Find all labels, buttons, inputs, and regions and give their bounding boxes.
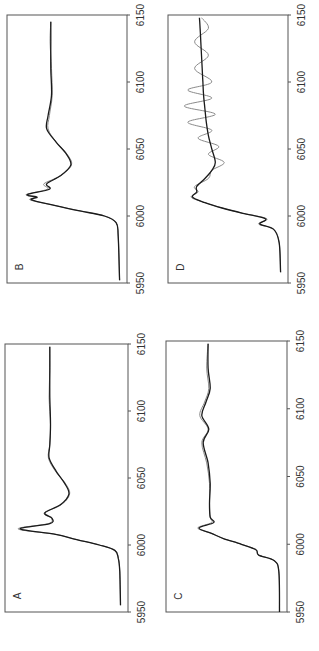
panel-A: 59506000605061006150A (0, 320, 160, 651)
panel-B: 59506000605061006150B (0, 0, 160, 320)
experiment-curve (26, 22, 120, 281)
plot-frame (166, 341, 287, 612)
tick-label: 6150 (136, 332, 147, 355)
panel-label: A (12, 592, 23, 599)
panel-D: 59506000605061006150D (160, 0, 319, 320)
tick-label: 5950 (295, 600, 306, 623)
plot-frame (5, 344, 128, 612)
plot-frame (168, 15, 288, 283)
tick-label: 6150 (295, 329, 306, 352)
tick-label: 6050 (135, 137, 146, 160)
tick-label: 6100 (295, 397, 306, 420)
panel-label: D (175, 263, 186, 270)
tick-label: 6050 (296, 137, 307, 160)
chart-B-svg: 59506000605061006150B (0, 0, 160, 320)
fit-curve (20, 347, 120, 606)
experiment-curve (184, 18, 280, 273)
panel-label: C (173, 592, 184, 599)
tick-label: 5950 (135, 271, 146, 294)
chart-C-svg: 59506000605061006150C (160, 320, 319, 651)
tick-label: 5950 (136, 600, 147, 623)
plot-frame (7, 15, 127, 283)
panel-C: 59506000605061006150C (160, 320, 319, 651)
tick-label: 6150 (135, 3, 146, 26)
experiment-curve (18, 347, 120, 606)
tick-label: 6000 (135, 204, 146, 227)
chart-A-svg: 59506000605061006150A (0, 320, 160, 651)
fit-curve (192, 18, 280, 273)
tick-label: 5950 (296, 271, 307, 294)
tick-label: 6050 (295, 465, 306, 488)
tick-label: 6000 (296, 204, 307, 227)
tick-label: 6050 (136, 466, 147, 489)
panel-label: B (14, 263, 25, 270)
fit-curve (27, 22, 119, 281)
tick-label: 6100 (136, 399, 147, 422)
chart-D-svg: 59506000605061006150D (160, 0, 319, 320)
tick-label: 6000 (136, 533, 147, 556)
tick-label: 6150 (296, 3, 307, 26)
tick-label: 6000 (295, 533, 306, 556)
fit-curve (199, 344, 279, 612)
tick-label: 6100 (296, 70, 307, 93)
tick-label: 6100 (135, 70, 146, 93)
